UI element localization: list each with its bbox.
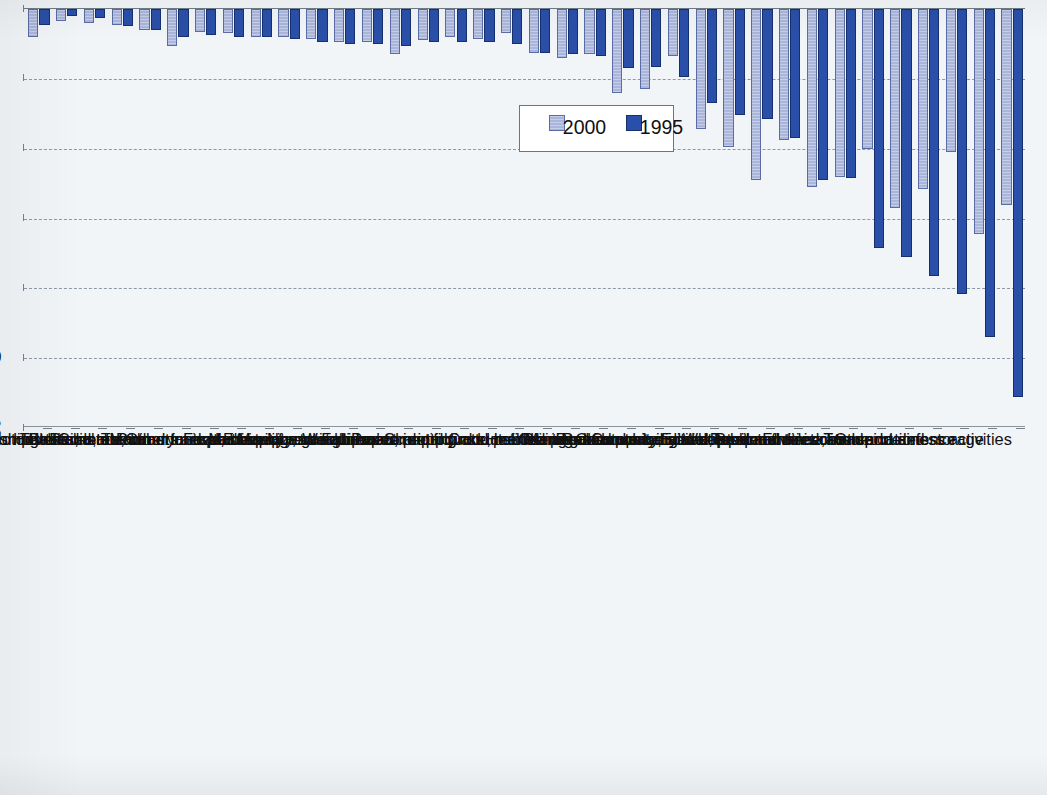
bar-group bbox=[943, 9, 969, 428]
category-tick bbox=[349, 428, 358, 429]
category-tick bbox=[404, 428, 413, 429]
category-tick bbox=[71, 428, 80, 429]
bar-series-2000 bbox=[946, 9, 956, 152]
bar-series-1995 bbox=[457, 9, 467, 42]
category-tick bbox=[154, 428, 163, 429]
category-tick bbox=[877, 428, 886, 429]
category-tick bbox=[98, 428, 107, 429]
legend-label-1: 2000 bbox=[563, 116, 606, 139]
bar-group bbox=[582, 9, 608, 428]
bar-group bbox=[498, 9, 524, 428]
bar-series-1995 bbox=[596, 9, 606, 56]
bar-group bbox=[637, 9, 663, 428]
category-tick bbox=[126, 428, 135, 429]
legend-item-1[interactable]: 2000 bbox=[519, 106, 596, 153]
bar-series-2000 bbox=[807, 9, 817, 187]
y-axis-tick-label: 4 bbox=[0, 137, 11, 159]
category-tick bbox=[182, 428, 191, 429]
bar-series-2000 bbox=[751, 9, 761, 180]
y-axis-tick-label: 8 bbox=[0, 276, 11, 298]
axis-tick bbox=[23, 74, 24, 81]
bar-series-2000 bbox=[862, 9, 872, 149]
bar-series-2000 bbox=[918, 9, 928, 189]
axis-tick bbox=[23, 354, 24, 361]
bar-series-1995 bbox=[318, 9, 328, 42]
axis-tick bbox=[23, 144, 24, 151]
axis-tick bbox=[23, 284, 24, 291]
bar-series-1995 bbox=[818, 9, 828, 180]
axis-tick bbox=[23, 214, 24, 221]
bar-series-2000 bbox=[362, 9, 372, 42]
bar-group bbox=[276, 9, 302, 428]
bar-series-1995 bbox=[262, 9, 272, 37]
bar-group bbox=[665, 9, 691, 428]
bar-series-2000 bbox=[56, 9, 66, 21]
bar-series-1995 bbox=[345, 9, 355, 44]
category-tick bbox=[627, 428, 636, 429]
category-tick bbox=[1016, 428, 1025, 429]
category-tick bbox=[43, 428, 52, 429]
bar-series-2000 bbox=[501, 9, 511, 33]
category-tick bbox=[432, 428, 441, 429]
bar-group bbox=[415, 9, 441, 428]
bar-group bbox=[248, 9, 274, 428]
bar-group bbox=[526, 9, 552, 428]
bar-series-2000 bbox=[112, 9, 122, 25]
bar-group bbox=[887, 9, 913, 428]
category-tick bbox=[710, 428, 719, 429]
bar-series-1995 bbox=[623, 9, 633, 68]
bar-group bbox=[359, 9, 385, 428]
bar-series-1995 bbox=[206, 9, 216, 35]
bar-series-1995 bbox=[957, 9, 967, 294]
bar-series-1995 bbox=[401, 9, 411, 46]
y-axis-tick-label: 6 bbox=[0, 207, 11, 229]
chart-legend[interactable]: 1995 2000 bbox=[519, 105, 674, 152]
bar-series-2000 bbox=[28, 9, 38, 37]
bar-series-1995 bbox=[95, 9, 105, 18]
bar-series-1995 bbox=[901, 9, 911, 257]
bar-series-1995 bbox=[1013, 9, 1023, 397]
bar-group bbox=[331, 9, 357, 428]
bar-group bbox=[609, 9, 635, 428]
bar-series-1995 bbox=[484, 9, 494, 42]
bar-series-1995 bbox=[123, 9, 133, 26]
category-tick bbox=[738, 428, 747, 429]
bar-group bbox=[748, 9, 774, 428]
bar-series-2000 bbox=[473, 9, 483, 39]
bar-series-1995 bbox=[429, 9, 439, 42]
bar-series-1995 bbox=[929, 9, 939, 276]
category-tick bbox=[905, 428, 914, 429]
bar-series-2000 bbox=[640, 9, 650, 89]
bar-series-1995 bbox=[39, 9, 49, 25]
bar-series-1995 bbox=[735, 9, 745, 115]
category-tick bbox=[682, 428, 691, 429]
category-label: Agriculture, forestry and fishing bbox=[0, 426, 39, 452]
bar-series-1995 bbox=[762, 9, 772, 119]
bar-group bbox=[915, 9, 941, 428]
bar-series-1995 bbox=[178, 9, 188, 37]
bar-series-1995 bbox=[790, 9, 800, 138]
bar-group bbox=[804, 9, 830, 428]
legend-item-0[interactable]: 1995 bbox=[596, 106, 673, 153]
bar-series-2000 bbox=[139, 9, 149, 30]
bar-series-2000 bbox=[167, 9, 177, 46]
bar-series-2000 bbox=[696, 9, 706, 129]
bar-series-1995 bbox=[568, 9, 578, 54]
bar-series-1995 bbox=[651, 9, 661, 67]
bar-series-2000 bbox=[779, 9, 789, 140]
bar-series-1995 bbox=[874, 9, 884, 248]
bar-series-2000 bbox=[390, 9, 400, 54]
category-tick bbox=[543, 428, 552, 429]
bar-series-2000 bbox=[1001, 9, 1011, 205]
legend-label-0: 1995 bbox=[640, 116, 683, 139]
bar-group bbox=[220, 9, 246, 428]
category-tick bbox=[265, 428, 274, 429]
bar-group bbox=[165, 9, 191, 428]
bar-series-2000 bbox=[974, 9, 984, 234]
bar-group bbox=[971, 9, 997, 428]
bar-series-2000 bbox=[306, 9, 316, 39]
chart-shell: 024681012%Other business activitiesTrans… bbox=[0, 0, 1047, 795]
bar-series-2000 bbox=[668, 9, 678, 56]
bar-series-2000 bbox=[835, 9, 845, 177]
category-tick bbox=[766, 428, 775, 429]
